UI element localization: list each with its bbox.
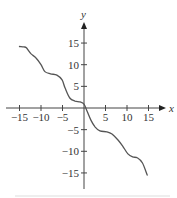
x-tick-label: −5: [57, 111, 69, 123]
chart: x y −15−10−551015 15105−5−10−15: [0, 0, 177, 198]
x-tick-label: 15: [143, 111, 155, 123]
y-tick-label: −5: [67, 124, 79, 136]
y-axis-label: y: [80, 8, 86, 20]
y-tick-label: 10: [68, 59, 80, 71]
y-tick-label: −10: [62, 145, 80, 157]
y-tick-label: −15: [62, 167, 80, 179]
x-tick-label: 10: [122, 111, 134, 123]
x-axis-label: x: [168, 102, 174, 114]
x-tick-label: −15: [11, 111, 29, 123]
y-axis-arrow-icon: [81, 22, 87, 29]
y-axis: y: [80, 8, 87, 189]
x-tick-label: 5: [103, 111, 109, 123]
x-axis-arrow-icon: [159, 105, 166, 111]
y-tick-label: 15: [68, 37, 80, 49]
x-tick-label: −10: [32, 111, 50, 123]
y-tick-label: 5: [74, 80, 80, 92]
